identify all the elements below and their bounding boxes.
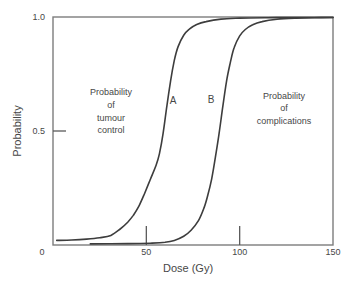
annotation-line: control [90,124,132,137]
x-axis-title: Dose (Gy) [163,262,213,274]
curve-a-label: A [170,95,177,106]
annotation-tumour-control: Probabilityoftumourcontrol [90,86,132,137]
annotation-line: complications [257,115,312,127]
x-tick-label: 150 [325,247,340,258]
x-tick-label: 50 [141,247,151,258]
annotation-line: of [257,102,312,114]
annotation-line: of [90,99,132,112]
annotation-complications: Probabilityofcomplications [257,90,312,127]
x-tick-label: 0 [39,247,44,258]
curve-b-label: B [208,94,215,105]
dose-response-figure: Probability Dose (Gy) Probabilityoftumou… [0,0,357,289]
annotation-line: Probability [90,86,132,99]
x-tick-label: 100 [232,247,247,258]
chart-canvas [0,0,357,289]
y-tick-label: 0.5 [15,126,45,137]
y-tick-label: 1.0 [15,12,45,23]
annotation-line: tumour [90,112,132,125]
annotation-line: Probability [257,90,312,102]
